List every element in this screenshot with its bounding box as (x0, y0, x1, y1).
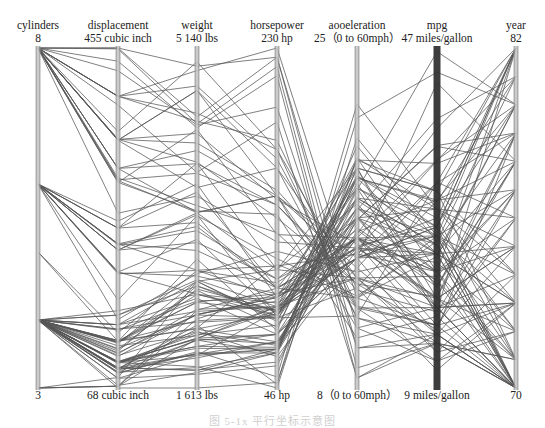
axis-min-acceleration: 8（0 to 60mph） (317, 389, 397, 402)
axis-min-horsepower: 46 hp (264, 389, 290, 402)
figure-caption: 图 5-1x 平行坐标示意图 (0, 412, 545, 428)
axis-min-weight: 1 613 lbs (176, 389, 218, 402)
axis-title-mpg: mpg (427, 19, 447, 32)
axis-title-weight: weight (181, 19, 212, 32)
axis-title-cylinders: cylinders (17, 19, 59, 32)
axis-min-cylinders: 3 (35, 389, 41, 402)
axis-title-displacement: displacement (88, 19, 149, 32)
axis-title-horsepower: horsepower (250, 19, 304, 32)
axis-max-cylinders: 8 (35, 32, 41, 45)
axis-max-weight: 5 140 lbs (176, 32, 218, 45)
axis-min-year: 70 (510, 389, 522, 402)
axis-max-acceleration: 25（0 to 60mph） (314, 32, 400, 45)
axis-min-mpg: 9 miles/gallon (404, 389, 469, 402)
axis-title-year: year (506, 19, 526, 32)
axis-max-horsepower: 230 hp (261, 32, 293, 45)
axis-max-displacement: 455 cubic inch (84, 32, 152, 45)
axis-min-displacement: 68 cubic inch (87, 389, 149, 402)
axis-max-year: 82 (510, 32, 522, 45)
axis-title-acceleration: aooeleration (329, 19, 386, 32)
axis-mpg[interactable] (434, 46, 441, 390)
axis-max-mpg: 47 miles/gallon (401, 32, 472, 45)
